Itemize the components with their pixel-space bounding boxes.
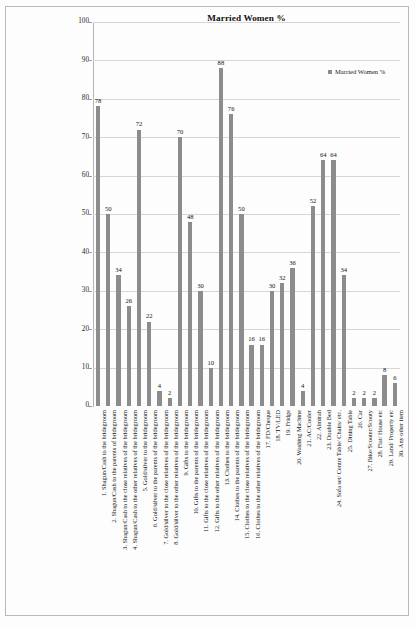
bar-group[interactable]: 36 [287, 22, 297, 406]
bar[interactable] [249, 345, 253, 406]
bar[interactable] [239, 214, 243, 406]
bar-value-label: 76 [228, 106, 235, 113]
bar-value-label: 78 [95, 98, 102, 105]
bar[interactable] [393, 383, 397, 406]
bar-group[interactable]: 26 [124, 22, 134, 406]
x-axis-label-slot: 22. Almirah [308, 408, 318, 623]
bar-group[interactable]: 30 [195, 22, 205, 406]
bar[interactable] [280, 283, 284, 406]
bar-group[interactable]: 4 [298, 22, 308, 406]
bar-group[interactable]: 78 [93, 22, 103, 406]
bar-group[interactable]: 52 [308, 22, 318, 406]
x-axis-label-slot: 5. Gold/silver to the bridegroom [134, 408, 144, 623]
bar-value-label: 70 [177, 129, 184, 136]
bar-group[interactable]: 2 [349, 22, 359, 406]
bar[interactable] [321, 160, 325, 406]
y-tick-mark-100 [88, 22, 92, 23]
bar-group[interactable]: 2 [359, 22, 369, 406]
bar-value-label: 50 [105, 206, 112, 213]
bar[interactable] [137, 130, 141, 406]
bar-group[interactable]: 50 [103, 22, 113, 406]
bar-value-label: 2 [352, 390, 355, 397]
bar[interactable] [219, 68, 223, 406]
y-tick-mark-80 [88, 99, 92, 100]
bar-group[interactable]: 32 [277, 22, 287, 406]
bar-value-label: 2 [373, 390, 376, 397]
bar[interactable] [372, 398, 376, 406]
bar-group[interactable]: 88 [216, 22, 226, 406]
x-axis-label-slot: 15. Clothes to the close relatives of th… [236, 408, 246, 623]
bar-value-label: 36 [289, 260, 296, 267]
bar-group[interactable]: 70 [175, 22, 185, 406]
plot-area: 7850342672224270483010887650161630323645… [93, 22, 400, 406]
bar[interactable] [229, 114, 233, 406]
y-tick-mark-40 [88, 252, 92, 253]
bar-group[interactable]: 34 [339, 22, 349, 406]
bar[interactable] [178, 137, 182, 406]
bar-group[interactable]: 2 [165, 22, 175, 406]
bar-value-label: 4 [301, 383, 304, 390]
y-tick-mark-20 [88, 329, 92, 330]
bar[interactable] [116, 275, 120, 406]
bar[interactable] [270, 291, 274, 406]
bar[interactable] [331, 160, 335, 406]
bar[interactable] [362, 398, 366, 406]
bar-value-label: 2 [168, 390, 171, 397]
bar-group[interactable]: 16 [257, 22, 267, 406]
bar[interactable] [352, 398, 356, 406]
x-axis-label-slot: 12. Gifts to the other relatives of the … [206, 408, 216, 623]
bar[interactable] [311, 206, 315, 406]
bar-group[interactable]: 2 [369, 22, 379, 406]
x-axis-label-slot: 1. Shagun/Cash to the bridegroom [93, 408, 103, 623]
bar[interactable] [301, 391, 305, 406]
x-axis-label-slot: 10. Gifts to the parents of the bridegro… [185, 408, 195, 623]
x-axis-label-slot: 13. Clothes to the bridegroom [216, 408, 226, 623]
bar-value-label: 10 [207, 360, 214, 367]
bar-group[interactable]: 76 [226, 22, 236, 406]
bar-value-label: 16 [248, 336, 255, 343]
x-axis-label-slot: 14. Clothes to the parents of the brideg… [226, 408, 236, 623]
bar-group[interactable]: 22 [144, 22, 154, 406]
bar-group[interactable]: 6 [390, 22, 400, 406]
bar[interactable] [168, 398, 172, 406]
bar-value-label: 34 [340, 267, 347, 274]
y-tick-mark-90 [88, 60, 92, 61]
bar-value-label: 4 [158, 383, 161, 390]
x-axis-label-slot: 24. Sofa set/ Centre Table/ Chairs/ etc. [328, 408, 338, 623]
bar-group[interactable]: 8 [380, 22, 390, 406]
bar-group[interactable]: 34 [113, 22, 123, 406]
bar-group[interactable]: 48 [185, 22, 195, 406]
y-tick-mark-50 [88, 214, 92, 215]
bar[interactable] [382, 375, 386, 406]
bar-group[interactable]: 50 [236, 22, 246, 406]
bar[interactable] [188, 222, 192, 406]
bar[interactable] [157, 391, 161, 406]
x-axis-label-slot: 7. Gold/silver to the close relatives of… [154, 408, 164, 623]
bar-value-label: 2 [363, 390, 366, 397]
x-axis-label-slot: 23. Double Bed [318, 408, 328, 623]
bar[interactable] [147, 322, 151, 406]
bar-group[interactable]: 16 [247, 22, 257, 406]
bar[interactable] [127, 306, 131, 406]
bar[interactable] [260, 345, 264, 406]
y-axis-tick-labels: 0102030405060708090100 [62, 0, 89, 629]
bar-group[interactable]: 64 [318, 22, 328, 406]
x-axis-label-slot: 26. Car [349, 408, 359, 623]
bar-value-label: 26 [126, 298, 133, 305]
bar-value-label: 8 [383, 367, 386, 374]
bar-group[interactable]: 64 [328, 22, 338, 406]
bar[interactable] [342, 275, 346, 406]
bar-chart: Married Women % Married Women % 01020304… [0, 0, 416, 629]
bar-group[interactable]: 4 [154, 22, 164, 406]
bar[interactable] [290, 268, 294, 406]
bar-group[interactable]: 10 [206, 22, 216, 406]
bar-group[interactable]: 30 [267, 22, 277, 406]
bar-value-label: 22 [146, 313, 153, 320]
bar[interactable] [106, 214, 110, 406]
x-axis-label-slot: 29. Land/ Property etc [380, 408, 390, 623]
bar-group[interactable]: 72 [134, 22, 144, 406]
bar[interactable] [198, 291, 202, 406]
bar[interactable] [209, 368, 213, 406]
bar[interactable] [96, 106, 100, 406]
x-axis-label-slot: 11. Gifts to the close relatives of the … [195, 408, 205, 623]
